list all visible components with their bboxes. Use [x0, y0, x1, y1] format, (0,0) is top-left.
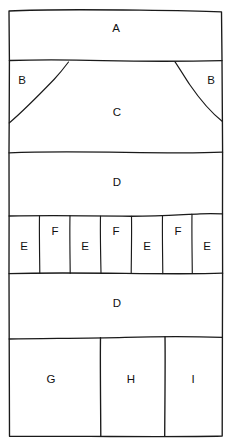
unit-label-d-upper: D [113, 176, 121, 188]
unit-label-a: A [112, 22, 120, 34]
divider-c-d-upper [9, 152, 223, 153]
boundary-b-left-c [9, 62, 68, 123]
band-cell-label-5: E [143, 240, 151, 252]
divider-d-lower-ghi [9, 337, 222, 339]
band-cell-label-7: E [203, 240, 211, 252]
band-cell-label-3: E [81, 240, 89, 252]
unit-label-g: G [47, 373, 56, 385]
ef-partition-3 [100, 216, 101, 273]
unit-label-h: H [127, 373, 135, 385]
stratigraphic-section-diagram: A B B C D E F E F E F E D G H I [0, 0, 230, 446]
unit-label-b-left: B [18, 74, 26, 86]
unit-label-d-lower: D [113, 297, 121, 309]
divider-ef-band-d-lower [9, 273, 223, 274]
divider-d-upper-ef-band [9, 214, 222, 217]
divider-a-bc [9, 60, 222, 61]
band-cell-label-2: F [51, 225, 58, 237]
band-cell-label-4: F [112, 225, 119, 237]
boundary-b-right-c [175, 62, 222, 122]
band-cell-label-1: E [20, 240, 28, 252]
unit-label-i: I [191, 373, 194, 385]
unit-label-c: C [113, 106, 121, 118]
section-drawing: A B B C D E F E F E F E D G H I [0, 0, 230, 446]
unit-label-b-right: B [207, 74, 215, 86]
band-cell-label-6: F [174, 225, 181, 237]
